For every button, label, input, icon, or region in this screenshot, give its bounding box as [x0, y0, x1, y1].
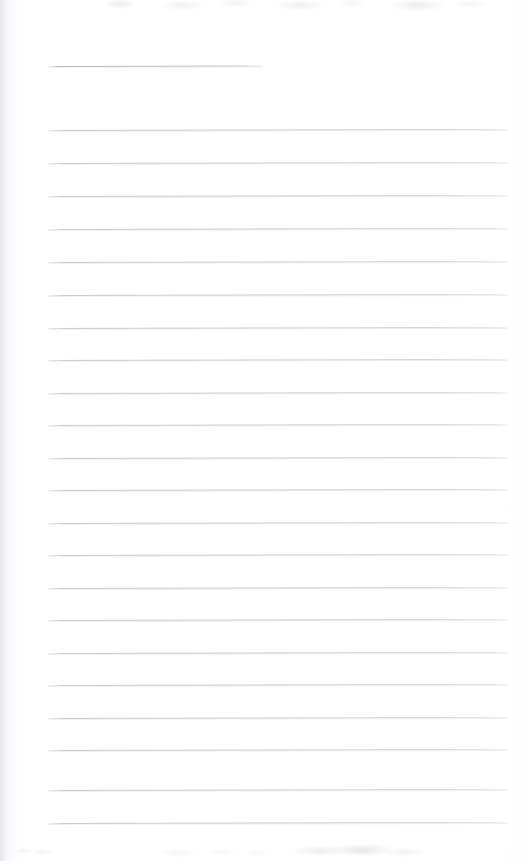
body-rule[interactable]: [48, 129, 508, 131]
body-rule[interactable]: [48, 327, 508, 329]
body-rule[interactable]: [48, 522, 508, 524]
body-rule[interactable]: [48, 424, 508, 426]
body-rule[interactable]: [48, 652, 508, 654]
body-rule[interactable]: [48, 261, 508, 263]
body-rule[interactable]: [48, 359, 508, 361]
body-rule[interactable]: [48, 392, 508, 394]
title-rule[interactable]: [48, 66, 263, 67]
body-rule[interactable]: [48, 587, 508, 589]
body-rule[interactable]: [48, 228, 508, 230]
body-rule[interactable]: [48, 457, 508, 459]
body-rule[interactable]: [48, 195, 508, 197]
body-rule[interactable]: [48, 749, 508, 751]
left-edge-scan-shadow: [0, 0, 26, 861]
body-rule[interactable]: [48, 684, 508, 686]
body-rule[interactable]: [48, 294, 508, 296]
body-rule[interactable]: [48, 619, 508, 621]
body-rule[interactable]: [48, 489, 508, 491]
body-rule[interactable]: [48, 554, 508, 556]
ruled-page: [0, 0, 527, 861]
body-rule[interactable]: [48, 717, 508, 719]
bottom-edge-scan-noise: [0, 839, 527, 861]
body-rule[interactable]: [48, 789, 508, 791]
body-rule[interactable]: [48, 162, 508, 164]
top-edge-scan-noise: [0, 0, 527, 15]
body-rule[interactable]: [48, 822, 508, 824]
